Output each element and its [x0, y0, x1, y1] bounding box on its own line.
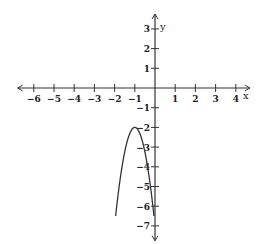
x-tick-label: 1	[172, 94, 178, 104]
x-tick-label: −6	[27, 94, 41, 104]
y-tick-label: 3	[144, 24, 150, 34]
x-tick-label: −2	[108, 94, 122, 104]
x-tick-label: 3	[212, 94, 218, 104]
x-tick-label: 4	[233, 94, 239, 104]
x-tick-label: 2	[192, 94, 198, 104]
x-tick-label: −4	[67, 94, 81, 104]
y-tick-label: −5	[136, 182, 150, 192]
y-tick-label: 2	[144, 44, 150, 54]
x-axis-label: x	[243, 90, 249, 101]
y-tick-label: −6	[136, 202, 150, 212]
y-tick-label: −7	[136, 221, 150, 231]
y-tick-label: −1	[136, 103, 150, 113]
parabola-chart: −6−5−4−3−2−11234321−1−2−3−4−5−6−7 x y	[0, 0, 266, 244]
x-tick-label: −3	[87, 94, 101, 104]
y-tick-label: 1	[144, 64, 150, 74]
y-axis-label: y	[159, 21, 166, 32]
x-tick-label: −5	[47, 94, 61, 104]
